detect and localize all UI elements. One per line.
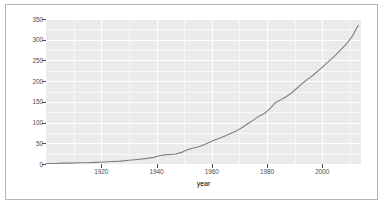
y-axis-tick-mark [42,60,46,61]
x-axis-tick-label: 1920 [94,168,108,175]
line-series-value [46,19,361,164]
y-axis-tick-mark [42,19,46,20]
x-axis-tick-label: 1980 [260,168,274,175]
x-axis-title: year [46,180,361,188]
x-axis-tick-mark [322,164,323,168]
figure-frame: 050100150200250300350 192019401960198020… [5,4,378,200]
x-axis-tick-mark [101,164,102,168]
x-axis-tick-mark [157,164,158,168]
y-axis-tick-mark [42,102,46,103]
plot-area [46,19,361,164]
y-axis-tick-mark [42,40,46,41]
x-axis-tick-mark [267,164,268,168]
x-axis-tick-mark [212,164,213,168]
x-axis-tick-label: 1940 [149,168,163,175]
x-axis-tick-label: 2000 [315,168,329,175]
y-axis-tick-mark [42,164,46,165]
plot-wrapper: 050100150200250300350 192019401960198020… [6,5,379,201]
y-axis-tick-mark [42,81,46,82]
y-axis-tick-mark [42,123,46,124]
y-axis-tick-mark [42,143,46,144]
x-axis-tick-label: 1960 [205,168,219,175]
